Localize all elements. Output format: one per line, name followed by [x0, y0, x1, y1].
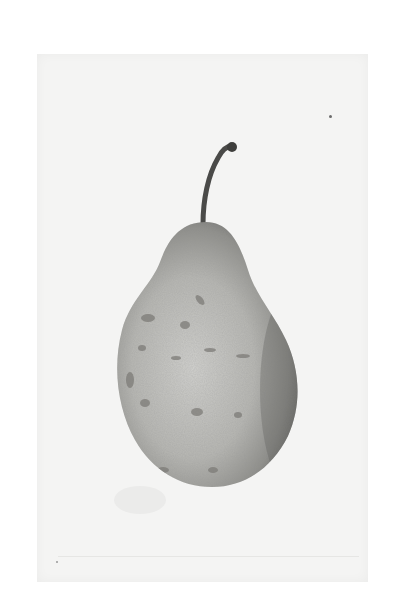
shadow-blob	[114, 486, 166, 514]
pear-illustration	[0, 0, 394, 610]
